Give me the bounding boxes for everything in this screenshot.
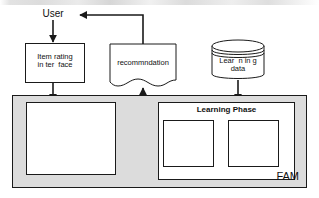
determine-weight-box[interactable] <box>228 120 284 172</box>
determine-weight-face <box>228 120 279 167</box>
determine-usefulness-face <box>163 120 214 167</box>
learning-data-database[interactable] <box>212 38 264 82</box>
determine-usefulness-box[interactable] <box>163 120 219 172</box>
diagram-canvas: User Item rating in ter face recommndati… <box>0 0 319 198</box>
arrow-recommendation-to-user <box>80 15 143 44</box>
inference-phase-box[interactable] <box>26 102 121 180</box>
item-rating-interface-box[interactable] <box>25 43 85 83</box>
recommendation-document[interactable] <box>110 44 176 86</box>
inference-phase-face <box>26 102 116 175</box>
